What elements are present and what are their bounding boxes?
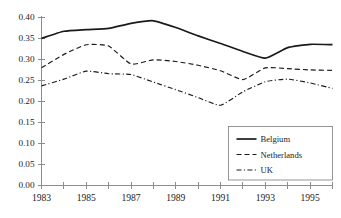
y-tick-label: 0.15	[18, 117, 34, 127]
x-tick-label: 1993	[256, 192, 275, 203]
y-tick-label: 0.40	[18, 12, 34, 22]
legend-label-belgium: Belgium	[261, 134, 291, 144]
x-tick-label: 1987	[121, 192, 140, 203]
legend-label-netherlands: Netherlands	[261, 150, 303, 160]
series-line-belgium	[42, 21, 333, 58]
y-tick-label: 0.20	[18, 96, 34, 106]
chart-legend: BelgiumNetherlandsUK	[229, 127, 333, 181]
x-axis: 1983198519871989199119931995	[32, 182, 333, 204]
series-line-netherlands	[42, 44, 333, 79]
legend-label-uk: UK	[261, 165, 274, 175]
x-tick-label: 1983	[32, 192, 51, 203]
y-tick-label: 0.35	[18, 33, 34, 43]
y-tick-label: 0.00	[18, 180, 34, 190]
series-line-uk	[42, 71, 333, 105]
x-tick-label: 1985	[77, 192, 96, 203]
y-axis: 0.400.350.300.250.200.150.100.050.00	[18, 12, 45, 190]
y-tick-label: 0.30	[18, 54, 34, 64]
x-tick-label: 1995	[301, 192, 320, 203]
x-tick-label: 1989	[166, 192, 185, 203]
x-tick-label: 1991	[211, 192, 230, 203]
data-series-group	[42, 21, 333, 105]
y-tick-label: 0.05	[18, 159, 34, 169]
chart-plot-area: 0.400.350.300.250.200.150.100.050.00 198…	[0, 0, 341, 218]
y-tick-label: 0.25	[18, 75, 34, 85]
y-tick-label: 0.10	[18, 138, 34, 148]
line-chart: 0.400.350.300.250.200.150.100.050.00 198…	[0, 0, 341, 218]
